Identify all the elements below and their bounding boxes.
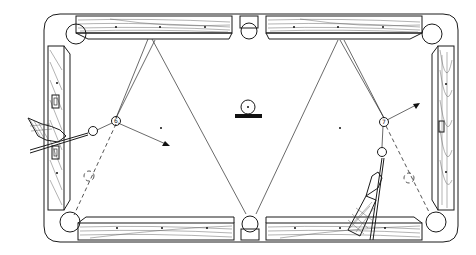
legend-ball-on-bar [235,100,262,118]
ball-6: 6 [112,117,121,126]
pocket-bottom-right [426,212,446,232]
right-rail [432,46,454,210]
svg-text:7: 7 [382,118,386,125]
bottom-rail-right [266,217,422,240]
pool-diagram: 6 7 [0,0,476,255]
right-shot-paths [256,40,430,214]
spot-left [160,127,162,129]
right-ghost-ball [404,173,414,183]
left-hand-icon [28,118,66,142]
cue-ball-left [89,127,98,136]
spot-right [339,127,341,129]
right-hand-icon [348,172,382,236]
bottom-rail-left [78,217,234,240]
pocket-bottom-left [60,212,80,232]
left-ghost-ball [84,171,94,181]
ball-7: 7 [380,118,389,127]
top-rail-left [76,16,232,39]
pocket-top-center [240,16,258,39]
pool-table-illustration: 6 7 [0,0,476,255]
left-shot-paths [74,39,246,215]
pocket-top-right [422,24,442,44]
svg-text:6: 6 [114,117,118,124]
pocket-bottom-center [241,216,259,240]
top-rail-right [266,16,422,39]
table-frame [44,14,458,242]
left-rail [48,46,70,210]
cue-ball-right [378,148,387,157]
